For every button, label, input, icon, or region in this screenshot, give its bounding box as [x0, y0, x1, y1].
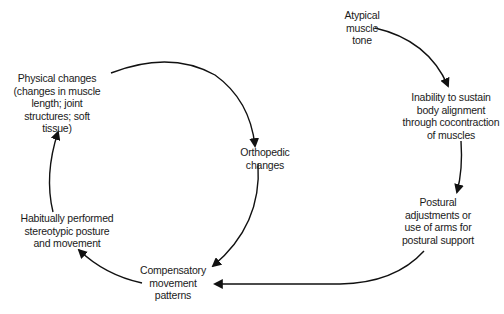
- arrow-inability-to-postural: [457, 141, 462, 192]
- node-orthopedic-changes: Orthopedic changes: [230, 146, 300, 171]
- arrow-habitual-to-physical: [49, 132, 58, 212]
- node-atypical-muscle-tone: Atypical muscle tone: [332, 9, 392, 47]
- node-compensatory-movement-patterns: Compensatory movement patterns: [133, 264, 213, 302]
- node-postural-adjustments: Postural adjustments or use of arms for …: [390, 196, 486, 246]
- node-physical-changes: Physical changes (changes in muscle leng…: [10, 72, 104, 135]
- node-habitual-stereotypic-posture: Habitually performed stereotypic posture…: [17, 212, 117, 250]
- arrow-postural-to-compensatory: [215, 251, 424, 284]
- node-inability-to-sustain-alignment: Inability to sustain body alignment thro…: [395, 91, 504, 141]
- arrow-physical-to-orthopedic: [111, 62, 255, 146]
- arrow-orthopedic-to-compensatory: [213, 164, 258, 266]
